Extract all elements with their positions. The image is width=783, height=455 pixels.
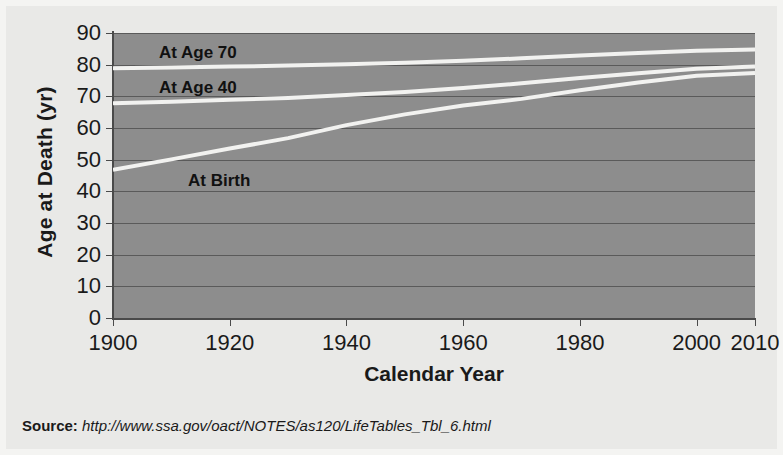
- source-url: http://www.ssa.gov/oact/NOTES/as120/Life…: [82, 417, 491, 434]
- x-axis-line: [112, 318, 756, 320]
- y-tick-label: 30: [77, 210, 101, 236]
- y-tick-label: 10: [77, 273, 101, 299]
- x-tick-label: 1960: [439, 330, 488, 356]
- source-label: Source:: [22, 417, 78, 434]
- x-tick-label: 1900: [89, 330, 138, 356]
- x-axis-title: Calendar Year: [113, 362, 755, 386]
- x-tick-label: 1920: [205, 330, 254, 356]
- series-label-at-birth: At Birth: [188, 171, 250, 191]
- y-tick-label: 20: [77, 242, 101, 268]
- y-tick-label: 50: [77, 147, 101, 173]
- y-tick-label: 90: [77, 20, 101, 46]
- y-tick-label: 0: [89, 305, 101, 331]
- series-label-at-age-40: At Age 40: [159, 78, 237, 98]
- x-tick-label: 2000: [672, 330, 721, 356]
- y-tick-label: 80: [77, 52, 101, 78]
- x-tick-label: 1940: [322, 330, 371, 356]
- life-expectancy-figure: Age at Death (yr) 0102030405060708090 19…: [0, 0, 783, 455]
- plot-area: 0102030405060708090 19001920194019601980…: [113, 33, 755, 318]
- y-tick-label: 60: [77, 115, 101, 141]
- source-note: Source: http://www.ssa.gov/oact/NOTES/as…: [22, 417, 491, 434]
- y-axis-title: Age at Death (yr): [33, 22, 57, 322]
- x-tick-label: 1980: [555, 330, 604, 356]
- series-label-at-age-70: At Age 70: [159, 43, 237, 63]
- y-tick-label: 70: [77, 83, 101, 109]
- y-tick-label: 40: [77, 178, 101, 204]
- x-tick-label: 2010: [731, 330, 780, 356]
